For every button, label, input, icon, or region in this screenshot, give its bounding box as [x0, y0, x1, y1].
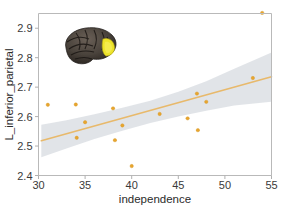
y-tick-label: 2.9: [17, 22, 32, 34]
data-point: [260, 11, 263, 14]
data-point: [158, 112, 161, 115]
data-point: [195, 92, 198, 95]
y-tick-label: 2.7: [17, 81, 32, 93]
y-tick-label: 2.6: [17, 111, 32, 123]
brain-inset-icon: [57, 22, 120, 69]
data-point: [121, 124, 124, 127]
x-tick-label: 40: [126, 179, 138, 191]
data-point: [113, 138, 116, 141]
data-point: [46, 103, 49, 106]
scatter-plot-figure: 303540455055 2.42.52.62.72.82.9 independ…: [0, 0, 284, 208]
regression-line: [41, 77, 271, 141]
x-tick-label: 50: [219, 179, 231, 191]
y-tick-label: 2.5: [17, 140, 32, 152]
data-point: [74, 103, 77, 106]
x-tick-label: 30: [32, 179, 44, 191]
x-axis-title: independence: [119, 193, 191, 205]
data-point: [111, 107, 114, 110]
y-axis-ticks: 2.42.52.62.72.82.9: [17, 22, 38, 181]
y-tick-label: 2.4: [17, 170, 32, 182]
data-point: [130, 164, 133, 167]
x-axis-ticks: 303540455055: [32, 176, 277, 191]
plot-canvas: 303540455055 2.42.52.62.72.82.9 independ…: [0, 0, 284, 208]
data-point: [205, 100, 208, 103]
y-tick-label: 2.8: [17, 52, 32, 64]
x-tick-label: 45: [172, 179, 184, 191]
y-axis-title: L_inferior_parietal: [3, 48, 15, 140]
regression-line-path: [41, 77, 271, 141]
data-point: [186, 117, 189, 120]
x-tick-label: 55: [265, 179, 277, 191]
data-point: [83, 120, 86, 123]
x-tick-label: 35: [79, 179, 91, 191]
data-point: [75, 136, 78, 139]
data-point: [196, 128, 199, 131]
data-point: [251, 76, 254, 79]
